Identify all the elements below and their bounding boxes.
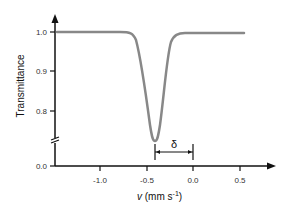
x-tick-label: -0.5	[140, 176, 154, 185]
y-ticks: 0.0 0.8 0.9 1.0	[36, 28, 55, 171]
x-tick-label: 0.0	[187, 176, 199, 185]
y-tick-label: 1.0	[36, 28, 48, 37]
x-axis-label-unit: (mm s	[142, 191, 173, 202]
delta-label: δ	[171, 138, 177, 150]
x-tick-label: 0.5	[234, 176, 246, 185]
y-tick-label: 0.0	[36, 162, 48, 171]
y-tick-label: 0.8	[36, 107, 48, 116]
y-axis-break-icon	[51, 137, 59, 143]
x-axis-label: v (mm s-1)	[137, 190, 182, 202]
y-tick-label: 0.9	[36, 67, 48, 76]
x-ticks: -1.0 -0.5 0.0 0.5	[93, 166, 246, 185]
y-axis-arrow-icon	[52, 14, 59, 23]
x-axis-label-close: )	[179, 191, 182, 202]
x-axis-arrow-icon	[267, 163, 276, 170]
transmittance-chart: 0.0 0.8 0.9 1.0 -1.0 -0.5 0.0 0.5 Transm…	[0, 0, 281, 213]
transmittance-curve	[57, 32, 244, 141]
y-axis-label: Transmittance	[15, 54, 26, 117]
isomer-shift-bracket: δ	[155, 138, 193, 160]
x-tick-label: -1.0	[93, 176, 107, 185]
